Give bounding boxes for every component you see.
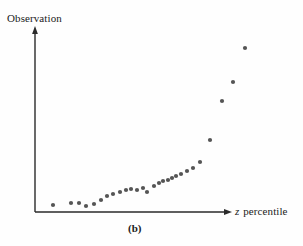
data-point (69, 201, 73, 205)
data-point (92, 202, 96, 206)
data-point (135, 188, 139, 192)
data-point (191, 166, 195, 170)
x-axis-arrowhead (224, 209, 232, 215)
data-point (51, 203, 55, 207)
data-point (208, 138, 212, 142)
data-point (231, 80, 235, 84)
data-point (141, 186, 145, 190)
axes-group (32, 26, 232, 215)
data-point (84, 204, 88, 208)
y-axis-label: Observation (7, 12, 62, 24)
data-point (157, 181, 161, 185)
data-point (220, 99, 224, 103)
data-point-group (51, 46, 247, 208)
data-point (111, 192, 115, 196)
x-axis-label: z percentile (235, 205, 288, 217)
data-point (170, 176, 174, 180)
data-point (243, 46, 247, 50)
data-point (129, 187, 133, 191)
panel-caption: (b) (128, 222, 141, 234)
data-point (198, 160, 202, 164)
data-point (105, 194, 109, 198)
data-point (179, 172, 183, 176)
data-point (152, 184, 156, 188)
data-point (161, 179, 165, 183)
data-point (166, 178, 170, 182)
data-point (118, 190, 122, 194)
y-axis-arrowhead (32, 26, 38, 34)
data-point (174, 174, 178, 178)
figure-panel-b: Observation z percentile (b) (0, 0, 303, 246)
data-point (145, 190, 149, 194)
data-point (124, 188, 128, 192)
x-axis-label-text: percentile (240, 205, 287, 217)
data-point (99, 198, 103, 202)
data-point (77, 201, 81, 205)
data-point (185, 169, 189, 173)
